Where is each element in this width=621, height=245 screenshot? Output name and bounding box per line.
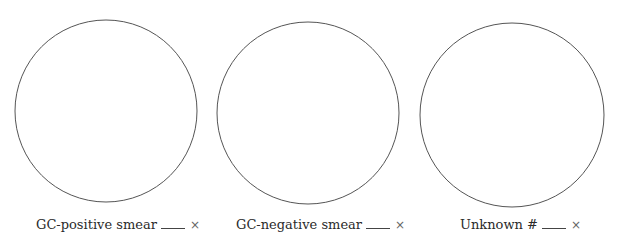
caption-text: Unknown # [460, 217, 538, 232]
field-circle-gc-positive [15, 20, 197, 202]
caption-text: GC-negative smear [236, 217, 362, 232]
microscope-field-circles [0, 0, 621, 245]
caption-gc-negative: GC-negative smear× [236, 217, 405, 232]
field-circle-unknown [420, 23, 604, 207]
field-circle-gc-negative [217, 22, 399, 204]
magnification-blank[interactable] [366, 218, 390, 229]
caption-gc-positive: GC-positive smear× [36, 217, 200, 232]
times-symbol: × [571, 218, 581, 232]
caption-unknown: Unknown #× [460, 217, 581, 232]
magnification-blank[interactable] [161, 218, 185, 229]
times-symbol: × [190, 218, 200, 232]
magnification-blank[interactable] [542, 218, 566, 229]
caption-text: GC-positive smear [36, 217, 157, 232]
times-symbol: × [395, 218, 405, 232]
